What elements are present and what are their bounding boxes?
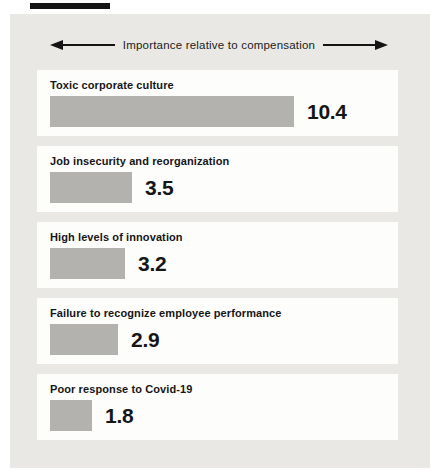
axis-arrow-line-right bbox=[323, 44, 375, 46]
bar-value: 10.4 bbox=[307, 100, 347, 124]
bar-row: 1.8 bbox=[50, 400, 385, 431]
bar-row: 2.9 bbox=[50, 324, 385, 355]
bar-card-job-insecurity: Job insecurity and reorganization 3.5 bbox=[37, 146, 398, 212]
bar-label: Failure to recognize employee performanc… bbox=[50, 307, 385, 319]
bar-label: Toxic corporate culture bbox=[50, 79, 385, 91]
bar-card-covid-response: Poor response to Covid-19 1.8 bbox=[37, 374, 398, 440]
axis-header: Importance relative to compensation bbox=[10, 14, 430, 70]
bar-fill bbox=[50, 96, 294, 127]
right-arrowhead-icon bbox=[375, 40, 388, 50]
bar-card-recognition: Failure to recognize employee performanc… bbox=[37, 298, 398, 364]
bar-card-innovation: High levels of innovation 3.2 bbox=[37, 222, 398, 288]
chart-panel: Importance relative to compensation Toxi… bbox=[10, 14, 430, 468]
bar-card-toxic-culture: Toxic corporate culture 10.4 bbox=[37, 70, 398, 136]
bar-fill bbox=[50, 400, 92, 431]
top-crop-rule bbox=[30, 3, 110, 9]
bar-label: High levels of innovation bbox=[50, 231, 385, 243]
bar-row: 3.2 bbox=[50, 248, 385, 279]
bar-value: 2.9 bbox=[131, 328, 159, 352]
bar-label: Job insecurity and reorganization bbox=[50, 155, 385, 167]
bar-fill bbox=[50, 172, 132, 203]
left-arrowhead-icon bbox=[50, 40, 63, 50]
axis-arrow-line-left bbox=[63, 44, 115, 46]
bar-fill bbox=[50, 324, 118, 355]
bar-fill bbox=[50, 248, 125, 279]
axis-label: Importance relative to compensation bbox=[115, 39, 323, 51]
bar-card-list: Toxic corporate culture 10.4 Job insecur… bbox=[10, 70, 430, 440]
bar-value: 1.8 bbox=[105, 404, 133, 428]
bar-label: Poor response to Covid-19 bbox=[50, 383, 385, 395]
bar-value: 3.2 bbox=[138, 252, 166, 276]
bar-value: 3.5 bbox=[145, 176, 173, 200]
bar-row: 3.5 bbox=[50, 172, 385, 203]
bar-row: 10.4 bbox=[50, 96, 385, 127]
